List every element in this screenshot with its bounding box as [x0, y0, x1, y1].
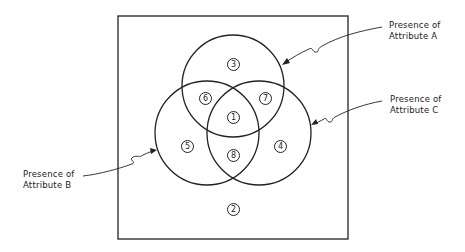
region-5: 5 [181, 140, 194, 153]
arrowhead-attribute-a-icon [282, 58, 290, 65]
label-attribute-b-line2: Attribute B [23, 180, 75, 191]
label-attribute-c-line2: Attribute C [390, 105, 442, 116]
label-attribute-b: Presence of Attribute B [23, 169, 75, 191]
arrowhead-attribute-b-icon [150, 148, 157, 154]
region-6: 6 [199, 92, 212, 105]
label-attribute-b-line1: Presence of [23, 169, 75, 180]
label-attribute-a-line1: Presence of [389, 20, 441, 31]
region-3: 3 [227, 58, 240, 71]
label-attribute-a: Presence of Attribute A [389, 20, 441, 42]
region-7: 7 [259, 92, 272, 105]
label-attribute-c: Presence of Attribute C [390, 94, 442, 116]
label-attribute-c-line1: Presence of [390, 94, 442, 105]
region-4: 4 [274, 140, 287, 153]
region-1: 1 [227, 111, 240, 124]
region-2: 2 [227, 203, 240, 216]
region-8: 8 [227, 149, 240, 162]
label-attribute-a-line2: Attribute A [389, 31, 441, 42]
arrow-attribute-a [286, 27, 382, 62]
arrowhead-attribute-c-icon [311, 119, 318, 125]
